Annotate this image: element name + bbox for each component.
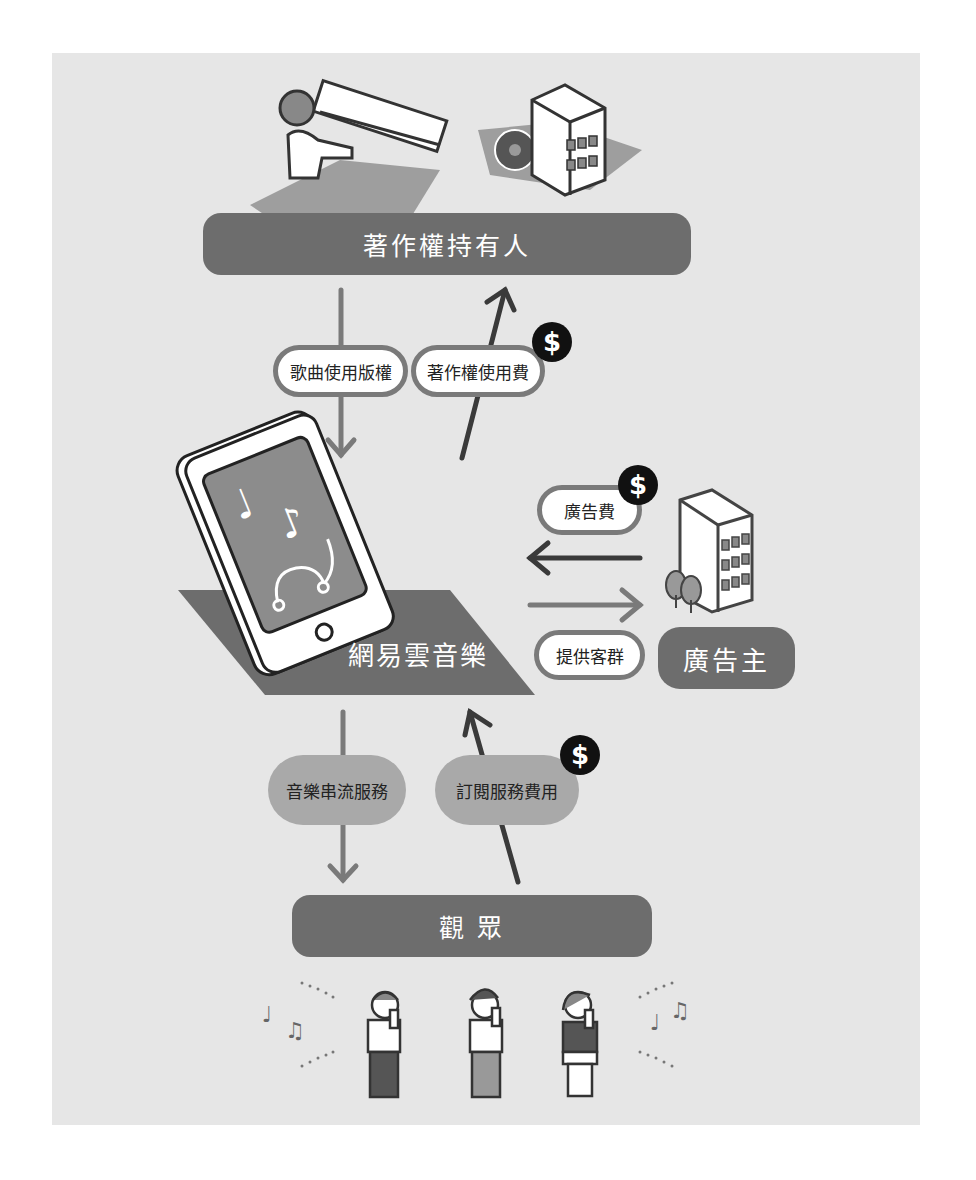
money-icon-royalty: $ xyxy=(532,322,572,362)
node-copyright-holder: 著作權持有人 xyxy=(203,213,691,275)
flow-royalty-fee: 著作權使用費 xyxy=(411,345,545,397)
flow-provide-audience: 提供客群 xyxy=(534,630,645,680)
advertiser-building-illustration xyxy=(666,490,752,613)
svg-text:♫: ♫ xyxy=(670,998,690,1023)
money-icon-ad: $ xyxy=(618,465,658,505)
label-building-illustration xyxy=(478,85,642,195)
node-advertiser: 廣告主 xyxy=(658,627,795,689)
node-audience: 觀 眾 xyxy=(292,895,652,957)
flow-subscription-fee: 訂閱服務費用 xyxy=(435,755,579,825)
diagram-graphics: ♩ ♪ xyxy=(0,0,976,1180)
money-icon-subscription: $ xyxy=(560,735,600,775)
flow-streaming-service: 音樂串流服務 xyxy=(268,755,406,825)
svg-text:♫: ♫ xyxy=(285,1018,305,1043)
svg-text:♩: ♩ xyxy=(650,1010,660,1035)
audience-illustration xyxy=(368,989,597,1097)
musician-illustration xyxy=(250,81,447,235)
flow-song-license: 歌曲使用版權 xyxy=(273,345,408,397)
node-platform-label: 網易雲音樂 xyxy=(348,635,488,672)
svg-text:♩: ♩ xyxy=(262,1002,272,1027)
arrow-ad-fee xyxy=(530,543,640,573)
arrow-provide-audience xyxy=(530,590,640,620)
